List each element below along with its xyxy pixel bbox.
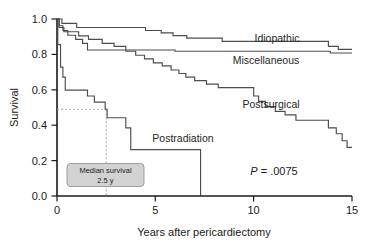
series-label-idiopathic: Idiopathic [255, 32, 300, 44]
km-survival-figure: 0.0 0.2 0.4 0.6 0.8 1.0 0 5 10 15 Surviv… [0, 0, 370, 249]
x-tick-label-2: 10 [247, 204, 259, 216]
median-survival-annotation: Median survival 2.5 y [67, 164, 144, 187]
y-axis-title: Survival [8, 88, 20, 127]
median-survival-line2: 2.5 y [97, 176, 114, 185]
median-survival-line1: Median survival [79, 166, 131, 175]
series-label-miscellaneous: Miscellaneous [233, 54, 300, 66]
y-tick-marks [52, 19, 58, 196]
x-tick-label-1: 5 [152, 204, 158, 216]
x-tick-label-3: 15 [346, 204, 358, 216]
series-label-postsurgical: Postsurgical [242, 98, 299, 110]
p-value-text: P = .0075 [250, 165, 297, 177]
x-tick-labels: 0 5 10 15 [54, 204, 358, 216]
y-tick-label-2: 0.4 [32, 119, 47, 131]
y-tick-labels: 0.0 0.2 0.4 0.6 0.8 1.0 [32, 13, 47, 202]
curve-miscellaneous [57, 19, 352, 53]
x-axis-title: Years after pericardiectomy [137, 226, 271, 238]
x-tick-label-0: 0 [54, 204, 60, 216]
x-tick-marks [57, 196, 352, 202]
y-tick-label-0: 0.0 [32, 190, 47, 202]
p-value-number: = .0075 [258, 165, 298, 177]
y-tick-label-5: 1.0 [32, 13, 47, 25]
y-tick-label-4: 0.8 [32, 48, 47, 60]
series-label-postradiation: Postradiation [152, 132, 213, 144]
curve-idiopathic [57, 19, 352, 49]
y-tick-label-3: 0.6 [32, 84, 47, 96]
survival-plot-svg: 0.0 0.2 0.4 0.6 0.8 1.0 0 5 10 15 Surviv… [0, 0, 370, 249]
y-tick-label-1: 0.2 [32, 155, 47, 167]
